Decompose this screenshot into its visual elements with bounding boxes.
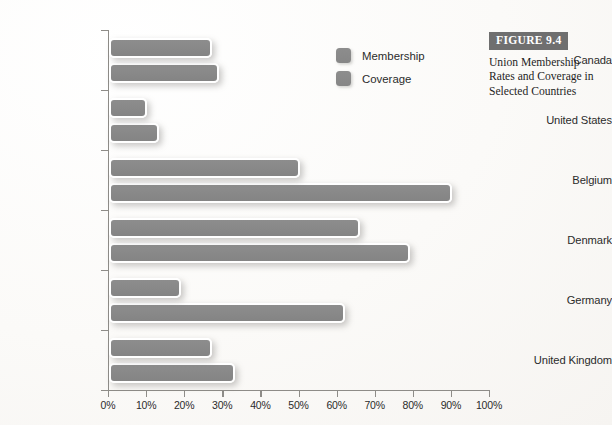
category-label-germany: Germany (516, 294, 612, 306)
membership-swatch (336, 48, 351, 63)
y-axis-line (108, 30, 109, 391)
figure-number-badge: FIGURE 9.4 (489, 32, 568, 51)
x-axis-tick (108, 390, 109, 397)
y-axis-tick (101, 150, 108, 151)
y-axis-tick (101, 210, 108, 211)
figure-caption-block: FIGURE 9.4 Union Membership Rates and Co… (489, 30, 601, 99)
x-axis-tick (222, 390, 223, 397)
x-axis-tick (375, 390, 376, 397)
category-label-denmark: Denmark (516, 234, 612, 246)
x-axis-tick-label: 80% (403, 399, 423, 411)
x-axis-tick-label: 70% (364, 399, 384, 411)
y-axis-tick (101, 90, 108, 91)
bar-canada-coverage (109, 63, 219, 83)
bar-canada-membership (109, 38, 212, 58)
chart-legend: MembershipCoverage (336, 45, 425, 91)
bar-united-kingdom-coverage (109, 363, 235, 383)
legend-label: Coverage (362, 73, 411, 85)
x-axis-tick-label: 60% (326, 399, 346, 411)
bar-united-kingdom-membership (109, 338, 212, 358)
x-axis-tick-label: 10% (136, 399, 156, 411)
bar-denmark-membership (109, 218, 360, 238)
x-axis-tick-label: 0% (101, 399, 116, 411)
bar-germany-coverage (109, 303, 345, 323)
bar-germany-membership (109, 278, 181, 298)
category-label-belgium: Belgium (516, 174, 612, 186)
x-axis-tick (146, 390, 147, 397)
legend-item-membership: Membership (336, 45, 425, 66)
x-axis-tick (260, 390, 261, 397)
x-axis-tick (413, 390, 414, 397)
coverage-swatch (336, 71, 351, 86)
x-axis-tick (451, 390, 452, 397)
figure-caption-text: Union Membership Rates and Coverage in S… (489, 56, 601, 99)
y-axis-tick (101, 390, 108, 391)
x-axis-tick (184, 390, 185, 397)
x-axis-tick (337, 390, 338, 397)
figure-container: 0%10%20%30%40%50%60%70%80%90%100% Canada… (0, 0, 612, 425)
category-label-united-states: United States (516, 114, 612, 126)
x-axis-tick-label: 100% (476, 399, 502, 411)
y-axis-tick (101, 30, 108, 31)
bar-belgium-membership (109, 158, 300, 178)
bar-belgium-coverage (109, 183, 452, 203)
y-axis-tick (101, 270, 108, 271)
x-axis-tick-label: 30% (212, 399, 232, 411)
category-label-united-kingdom: United Kingdom (516, 354, 612, 366)
y-axis-tick (101, 330, 108, 331)
bar-united-states-membership (109, 98, 147, 118)
x-axis-tick (299, 390, 300, 397)
x-axis-tick-label: 20% (174, 399, 194, 411)
x-axis-tick-label: 40% (250, 399, 270, 411)
bar-denmark-coverage (109, 243, 410, 263)
legend-item-coverage: Coverage (336, 68, 425, 89)
x-axis-tick-label: 50% (288, 399, 308, 411)
x-axis-tick-label: 90% (441, 399, 461, 411)
bar-united-states-coverage (109, 123, 159, 143)
x-axis-tick (489, 390, 490, 397)
legend-label: Membership (362, 50, 425, 62)
